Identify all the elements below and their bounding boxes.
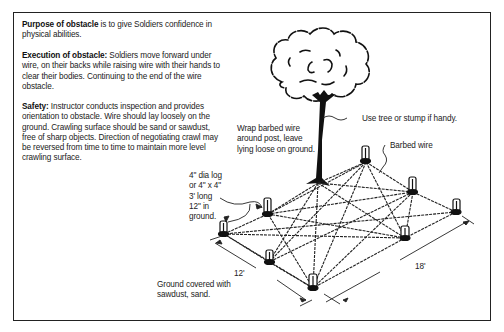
post-icon [263,198,273,217]
wrap-line-1: Wrap barbed wire [237,124,315,134]
obstacle-illustration [0,0,504,332]
post-line-4: 12" in [189,202,222,212]
barbed-wire-callout: Barbed wire [390,141,433,151]
post-line-5: ground. [189,212,222,222]
post-icon [451,199,461,215]
tree-callout: Use tree or stump if handy. [362,114,457,124]
dimension-length-label: 18' [415,262,425,272]
post-icon [400,226,410,241]
post-icon [265,250,275,265]
post-line-1: 4" dia log [189,171,222,181]
post-callout: 4" dia log or 4" x 4" 3' long 12" in gro… [189,171,222,222]
dimension-lines [210,216,474,306]
post-icon [219,221,229,237]
post-icon [408,177,418,195]
wrap-callout: Wrap barbed wire around post, leave lyin… [237,124,315,155]
wrap-line-3: lying loose on ground. [237,145,315,155]
post-icon [308,274,318,291]
post-line-3: 3' long [189,192,222,202]
wrap-line-2: around post, leave [237,134,315,144]
dimension-width-label: 12' [234,269,244,279]
ground-line-2: sawdust, sand. [157,290,231,300]
post-line-2: or 4" x 4" [189,181,222,191]
ground-line-1: Ground covered with [157,280,231,290]
ground-callout: Ground covered with sawdust, sand. [157,280,231,301]
tree-icon [271,28,369,101]
post-icon [361,146,371,164]
